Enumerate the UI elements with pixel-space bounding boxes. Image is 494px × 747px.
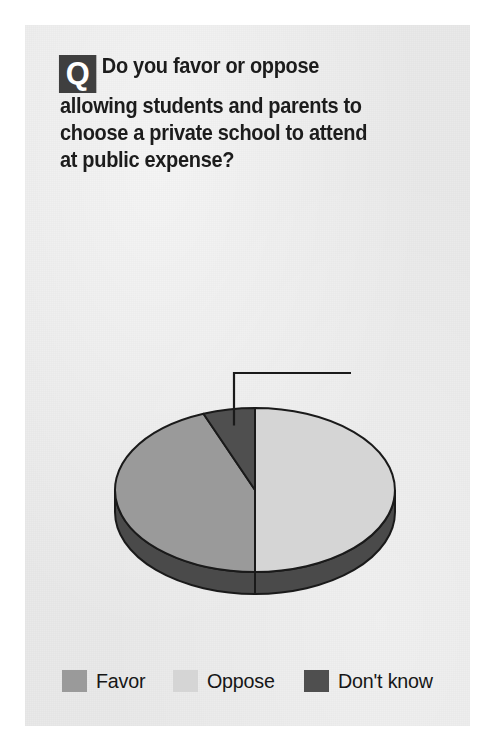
- legend-item-favor[interactable]: Favor: [62, 669, 147, 693]
- legend-item-oppose[interactable]: Oppose: [173, 669, 278, 693]
- legend-swatch-oppose: [173, 670, 198, 692]
- legend-item-dont-know[interactable]: Don't know: [304, 669, 437, 693]
- legend-label-dont-know: Don't know: [338, 669, 433, 693]
- legend-swatch-dont-know: [304, 670, 329, 692]
- legend-label-oppose: Oppose: [207, 669, 275, 693]
- chart-legend: Favor Oppose Don't know: [62, 669, 437, 693]
- question-block: QDo you favor or oppose allowing student…: [60, 53, 405, 174]
- question-badge-icon: Q: [59, 55, 97, 93]
- legend-swatch-favor: [62, 670, 87, 692]
- pie-chart-svg: 44% 50% 6%: [25, 330, 470, 630]
- pie-chart: 44% 50% 6%: [25, 330, 470, 630]
- legend-label-favor: Favor: [96, 669, 145, 693]
- question-text: QDo you favor or oppose allowing student…: [60, 53, 381, 174]
- pie-slices-group: [115, 408, 395, 572]
- question-body-text: Do you favor or oppose allowing students…: [60, 54, 367, 172]
